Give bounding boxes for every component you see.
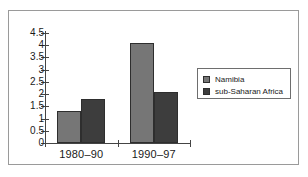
y-tick-label: 2.5 [4,77,44,87]
y-tick-label: 0.5 [4,126,44,136]
bar-chart-figure: 00.511.522.533.544.5 1980–901990–97 Nami… [0,0,308,177]
legend-swatch-sub-saharan-africa [203,88,210,95]
chart-legend: Namibia sub-Saharan Africa [197,68,291,99]
x-tick-mark [118,140,119,147]
x-tick-label: 1980–90 [45,148,117,160]
y-axis-line [45,31,46,144]
y-tick-label: 2 [4,89,44,99]
y-tick-label: 0 [4,138,44,148]
bar [81,99,105,143]
y-tick-label: 3.5 [4,52,44,62]
legend-item-sub-saharan-africa: sub-Saharan Africa [203,86,283,97]
x-tick-label: 1990–97 [118,148,190,160]
bar [154,92,178,143]
legend-label-sub-saharan-africa: sub-Saharan Africa [215,87,283,96]
y-tick-label: 1 [4,114,44,124]
legend-item-namibia: Namibia [203,74,244,85]
y-tick-label: 4.5 [4,28,44,38]
y-tick-label: 1.5 [4,101,44,111]
x-tick-mark [45,140,46,147]
y-tick-label: 3 [4,65,44,75]
legend-swatch-namibia [203,76,210,83]
bar [57,111,81,143]
bar [130,43,154,143]
legend-label-namibia: Namibia [215,75,244,84]
x-tick-mark [190,140,191,147]
y-tick-label: 4 [4,40,44,50]
